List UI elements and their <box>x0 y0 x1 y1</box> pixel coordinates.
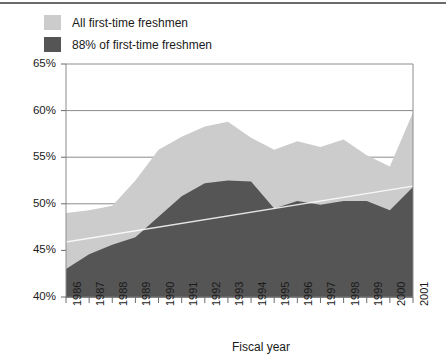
y-axis-tick-label: 45% <box>22 244 56 255</box>
x-axis-tick-label: 1993 <box>233 282 245 306</box>
y-axis-tick-label: 60% <box>22 105 56 116</box>
x-axis-tick-label: 1997 <box>325 282 337 306</box>
x-axis-tick-label: 1996 <box>302 282 314 306</box>
x-axis-tick-label: 1989 <box>140 282 152 306</box>
x-axis-tick-label: 1998 <box>349 282 361 306</box>
x-axis-tick-label: 1988 <box>117 282 129 306</box>
chart-figure: All first-time freshmen 88% of first-tim… <box>0 0 446 360</box>
x-axis-tick-label: 1994 <box>256 282 268 306</box>
x-axis-tick-label: 1986 <box>71 282 83 306</box>
y-axis-tick-label: 55% <box>22 151 56 162</box>
y-axis-tick-label: 50% <box>22 198 56 209</box>
x-axis-tick-label: 1991 <box>187 282 199 306</box>
x-axis-tick-label: 2001 <box>418 282 430 306</box>
plot-area <box>0 0 446 360</box>
x-axis-tick-label: 1990 <box>164 282 176 306</box>
x-axis-tick-label: 2000 <box>395 282 407 306</box>
x-axis-tick-label: 1999 <box>372 282 384 306</box>
x-axis-tick-label: 1992 <box>210 282 222 306</box>
x-axis-tick-label: 1987 <box>94 282 106 306</box>
area-chart-svg <box>0 0 446 360</box>
y-axis-tick-label: 65% <box>22 58 56 69</box>
y-axis-tick-label: 40% <box>22 291 56 302</box>
area-series-group <box>66 112 413 297</box>
x-axis-tick-label: 1995 <box>279 282 291 306</box>
x-axis-title: Fiscal year <box>232 340 290 354</box>
